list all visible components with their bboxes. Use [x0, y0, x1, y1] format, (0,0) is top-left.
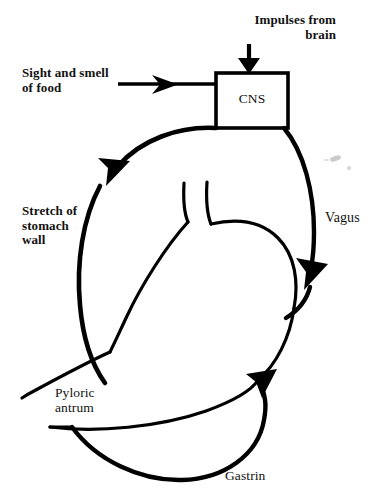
stretch-arrow	[79, 128, 216, 383]
vagus-arc-upper	[284, 128, 314, 268]
stretch-arrow-head	[98, 158, 130, 186]
label-pyloric-antrum: Pyloric antrum	[55, 385, 95, 415]
oesophagus-right-wall	[207, 182, 211, 224]
oesophagus-left-wall	[184, 183, 188, 222]
sight-smell-arrow	[118, 75, 216, 94]
label-gastrin: Gastrin	[225, 468, 265, 483]
stomach-fundus-curve	[211, 221, 296, 308]
label-cns: CNS	[216, 91, 288, 106]
stretch-arc-lower	[79, 186, 105, 383]
label-impulses-from-brain: Impulses from brain	[212, 13, 336, 42]
label-sight-and-smell-of-food: Sight and smell of food	[22, 66, 109, 95]
scan-artifact-icon	[324, 159, 329, 161]
gastrin-arrow-head	[246, 369, 277, 398]
vagus-arc-lower	[286, 287, 310, 318]
diagram-canvas: Impulses from brain Sight and smell of f…	[0, 0, 381, 499]
impulses-arrow	[238, 44, 260, 74]
stretch-arc-upper	[118, 128, 216, 166]
stomach-body-left-wall	[110, 222, 188, 352]
scan-artifact-icon	[347, 166, 351, 170]
gastrin-arrow	[72, 369, 277, 480]
vagus-arrow	[284, 128, 328, 318]
gastrin-arc	[72, 386, 265, 480]
vagus-arrow-head	[296, 258, 328, 290]
label-vagus: Vagus	[325, 210, 360, 226]
label-stretch-of-stomach-wall: Stretch of stomach wall	[22, 204, 77, 248]
